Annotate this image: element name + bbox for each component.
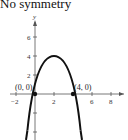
chart-plot: y −2 2 6 8 2 4 6 (0, 0) (4, 0) bbox=[0, 0, 128, 140]
svg-text:8: 8 bbox=[109, 98, 113, 106]
y-axis-label: y bbox=[32, 13, 37, 21]
svg-text:6: 6 bbox=[90, 98, 94, 106]
point-4-0 bbox=[71, 92, 75, 96]
svg-text:6: 6 bbox=[27, 34, 31, 42]
label-origin: (0, 0) bbox=[15, 83, 33, 92]
svg-text:4: 4 bbox=[27, 53, 31, 61]
svg-text:−2: −2 bbox=[11, 98, 19, 106]
svg-text:2: 2 bbox=[27, 72, 31, 80]
label-4-0: (4, 0) bbox=[74, 83, 92, 92]
svg-text:2: 2 bbox=[52, 98, 56, 106]
point-origin bbox=[33, 92, 37, 96]
